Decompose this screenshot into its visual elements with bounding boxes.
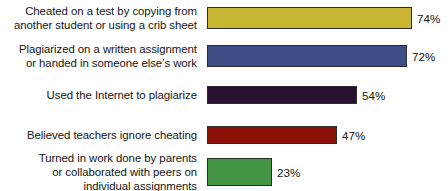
chart-row: Plagiarized on a written assignment or h… <box>0 42 448 70</box>
bar-track: 23% <box>197 155 448 189</box>
chart-row: Turned in work done by parents or collab… <box>0 155 448 189</box>
bar-value-label: 72% <box>412 50 435 63</box>
bar-category-label: Turned in work done by parents or collab… <box>0 151 197 191</box>
bar-value-label: 54% <box>362 89 385 102</box>
bar-category-label: Believed teachers ignore cheating <box>0 128 197 142</box>
chart-row: Used the Internet to plagiarize 54% <box>0 83 448 107</box>
chart-row: Believed teachers ignore cheating 47% <box>0 123 448 147</box>
bar-segment[interactable] <box>207 86 357 104</box>
bar-segment[interactable] <box>207 7 412 29</box>
bar-category-label: Cheated on a test by copying from anothe… <box>0 4 197 32</box>
bar-category-label: Used the Internet to plagiarize <box>0 88 197 102</box>
bar-value-label: 23% <box>277 166 300 179</box>
horizontal-bar-chart: Cheated on a test by copying from anothe… <box>0 0 448 191</box>
bar-segment[interactable] <box>207 158 272 186</box>
bar-track: 74% <box>197 4 448 32</box>
bar-segment[interactable] <box>207 126 337 144</box>
bar-value-label: 47% <box>342 129 365 142</box>
bar-segment[interactable] <box>207 45 407 67</box>
bar-track: 47% <box>197 123 448 147</box>
bar-category-label: Plagiarized on a written assignment or h… <box>0 42 197 70</box>
bar-value-label: 74% <box>417 12 440 25</box>
bar-track: 54% <box>197 83 448 107</box>
chart-row: Cheated on a test by copying from anothe… <box>0 4 448 32</box>
bar-track: 72% <box>197 42 448 70</box>
